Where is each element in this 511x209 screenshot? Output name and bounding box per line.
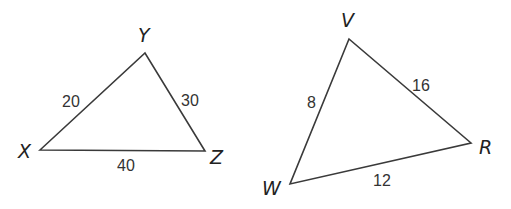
vertex-r-label: R — [479, 136, 492, 158]
vertex-z-label: Z — [209, 146, 224, 168]
side-yz-length: 30 — [181, 92, 199, 109]
side-xz-length: 40 — [117, 157, 135, 174]
side-xy-length: 20 — [62, 93, 80, 110]
side-wr-length: 12 — [373, 172, 391, 189]
vertex-w-label: W — [262, 177, 282, 199]
vertex-v-label: V — [341, 9, 356, 31]
similar-triangles-diagram: X Y Z 20 30 40 V W R 8 16 12 — [0, 0, 511, 209]
side-vw-length: 8 — [307, 94, 316, 111]
side-vr-length: 16 — [412, 77, 430, 94]
triangle-vwr-shape — [290, 39, 471, 184]
vertex-y-label: Y — [138, 24, 151, 46]
vertex-x-label: X — [17, 140, 32, 162]
triangle-xyz: X Y Z 20 30 40 — [17, 24, 224, 174]
triangle-vwr: V W R 8 16 12 — [262, 9, 492, 199]
